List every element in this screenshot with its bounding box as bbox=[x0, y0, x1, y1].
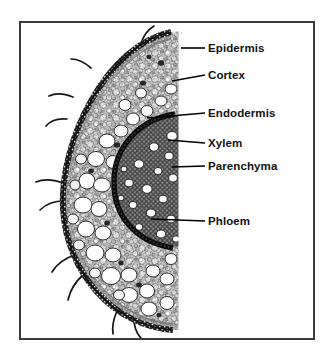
leader-line-parenchyma bbox=[172, 166, 205, 167]
figure-root-cross-section: EpidermisCortexEndodermisXylemParenchyma… bbox=[0, 0, 332, 357]
label-endodermis: Endodermis bbox=[208, 108, 275, 120]
label-phloem: Phloem bbox=[208, 216, 250, 228]
micrograph-drawing bbox=[21, 23, 313, 338]
label-xylem: Xylem bbox=[208, 138, 242, 150]
figure-frame: EpidermisCortexEndodermisXylemParenchyma… bbox=[19, 21, 315, 340]
label-parenchyma: Parenchyma bbox=[208, 161, 277, 173]
label-epidermis: Epidermis bbox=[208, 43, 265, 55]
label-cortex: Cortex bbox=[208, 70, 245, 82]
